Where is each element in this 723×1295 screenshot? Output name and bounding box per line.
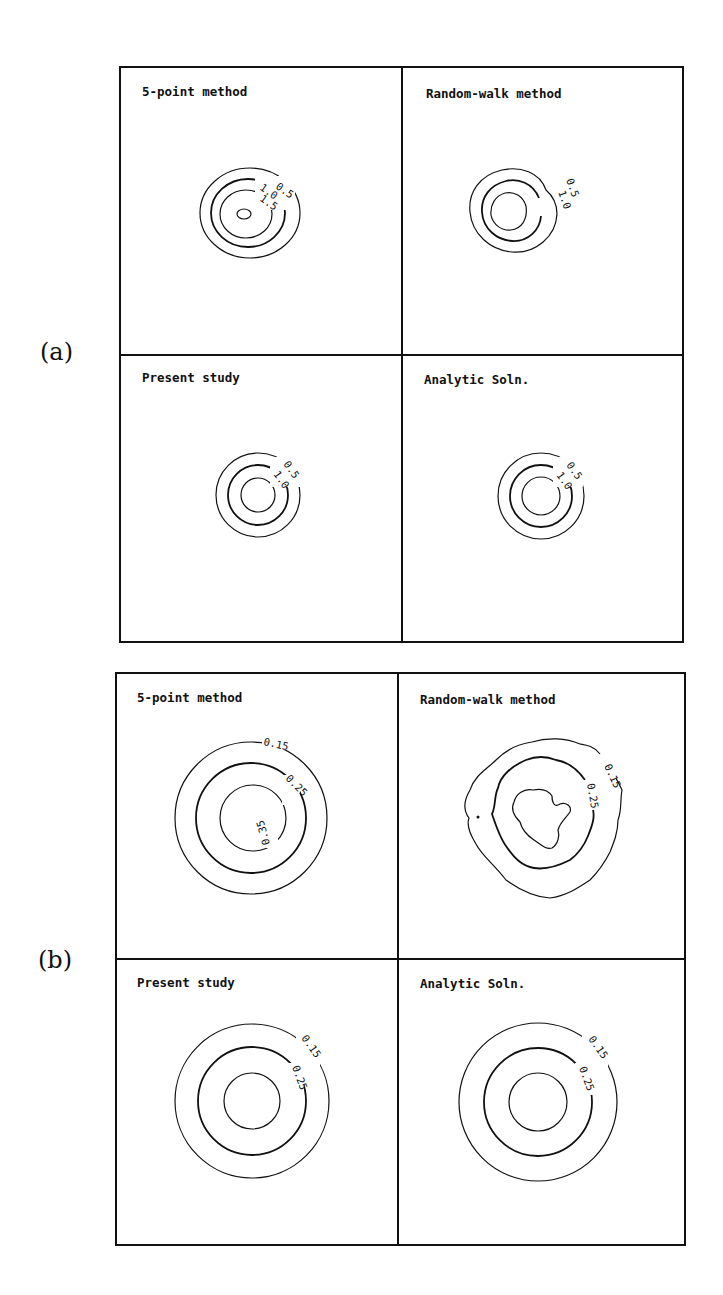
subplot-a-5-point: 5-point method 0.5 1.0 1.5: [142, 84, 300, 258]
subplot-title: Random-walk method: [426, 86, 561, 101]
contour-line: [237, 209, 251, 219]
contour-line: [509, 1073, 567, 1131]
contour-line: [470, 169, 557, 252]
subplot-title: 5-point method: [137, 690, 242, 705]
subplot-title: Random-walk method: [420, 692, 555, 707]
contour-line: [492, 757, 594, 869]
subplot-b-present-study: Present study 0.15 0.25: [137, 975, 329, 1178]
subplot-b-5-point: 5-point method 0.15 0.25 0.35: [137, 690, 327, 894]
subplot-title: Present study: [137, 975, 235, 990]
subplot-b-random-walk: Random-walk method 0.15 0.25: [420, 692, 624, 898]
contour-line: [175, 742, 327, 894]
panel-b: 5-point method 0.15 0.25 0.35 Random-wal…: [116, 673, 685, 1245]
contour-line: [513, 789, 571, 848]
contour-line: [224, 1073, 280, 1129]
subplot-a-random-walk: Random-walk method 0.5 1.0: [426, 86, 582, 252]
contour-line: [491, 193, 526, 231]
subplot-title: 5-point method: [142, 84, 247, 99]
subplot-title: Present study: [142, 370, 240, 385]
subplot-b-analytic: Analytic Soln. 0.15 0.25: [420, 976, 617, 1181]
subplot-title: Analytic Soln.: [424, 372, 529, 387]
contour-figure: 5-point method 0.5 1.0 1.5 Random-walk m…: [0, 0, 723, 1295]
subplot-a-analytic: Analytic Soln. 0.5 1.0: [424, 372, 585, 539]
subplot-title: Analytic Soln.: [420, 976, 525, 991]
contour-line: [241, 478, 275, 512]
panel-a: 5-point method 0.5 1.0 1.5 Random-walk m…: [120, 67, 683, 642]
noise-dot: [477, 816, 480, 819]
subplot-a-present-study: Present study 0.5 1.0: [142, 370, 302, 537]
